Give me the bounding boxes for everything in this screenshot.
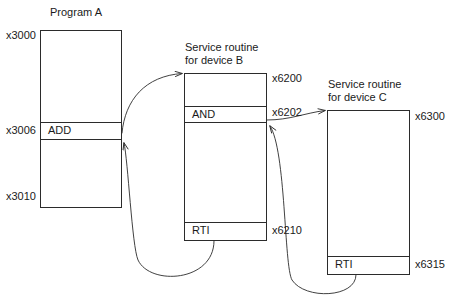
service-routine-b-cell-rti: RTI xyxy=(192,224,210,237)
diagram-canvas: Program A x3000 x3006 x3010 ADD Service … xyxy=(0,0,451,306)
program-a-heading: Program A xyxy=(50,6,102,20)
service-routine-c-heading-line2: for device C xyxy=(328,91,387,105)
service-routine-b-cell-and: AND xyxy=(192,108,215,121)
service-routine-b-heading-line2: for device B xyxy=(185,54,243,68)
service-routine-b-box xyxy=(185,74,267,241)
program-a-cell-add: ADD xyxy=(48,124,71,137)
program-a-address-x3000: x3000 xyxy=(6,29,36,42)
service-routine-b-address-x6210: x6210 xyxy=(272,224,302,237)
program-a-address-x3010: x3010 xyxy=(6,190,36,203)
service-routine-c-address-x6300: x6300 xyxy=(415,110,445,123)
arrow-a-to-b xyxy=(122,74,182,134)
service-routine-c-address-x6315: x6315 xyxy=(415,258,445,271)
program-a-address-x3006: x3006 xyxy=(6,124,36,137)
service-routine-b-address-x6202: x6202 xyxy=(272,106,302,119)
service-routine-b-heading-line1: Service routine xyxy=(185,41,258,55)
service-routine-c-cell-rti: RTI xyxy=(335,258,353,271)
service-routine-c-heading-line1: Service routine xyxy=(328,78,401,92)
service-routine-c-box xyxy=(328,111,410,275)
program-a-box xyxy=(41,31,122,208)
service-routine-b-address-x6200: x6200 xyxy=(272,72,302,85)
arrow-b-rti-to-a xyxy=(124,143,214,276)
